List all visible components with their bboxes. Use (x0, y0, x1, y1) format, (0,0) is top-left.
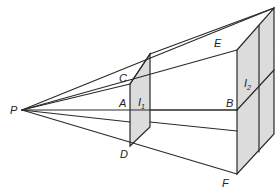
diagram-canvas: P A B C D E F I1 I2 (0, 0, 279, 196)
panel-i2 (237, 8, 274, 174)
label-e: E (214, 37, 222, 49)
ray-p-lower (22, 110, 130, 122)
label-p: P (10, 104, 18, 116)
label-b: B (226, 97, 233, 109)
perspective-diagram: P A B C D E F I1 I2 (0, 0, 279, 196)
line-lower-i1-to-i2 (150, 122, 237, 131)
label-a: A (118, 97, 126, 109)
label-c: C (119, 72, 127, 84)
label-f: F (222, 177, 230, 189)
label-d: D (120, 148, 128, 160)
